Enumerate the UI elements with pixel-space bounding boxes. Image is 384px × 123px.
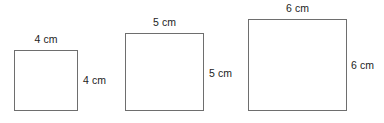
square-4cm-shape xyxy=(14,50,78,111)
square-5cm-top-label: 5 cm xyxy=(125,16,204,28)
square-4cm-side-label: 4 cm xyxy=(83,74,106,86)
square-6cm-shape xyxy=(248,19,347,111)
square-4cm-top-label: 4 cm xyxy=(14,33,78,45)
square-6cm-side-label: 6 cm xyxy=(351,59,374,71)
square-5cm-shape xyxy=(125,33,204,111)
square-6cm-top-label: 6 cm xyxy=(248,2,347,14)
squares-diagram: 4 cm 4 cm 5 cm 5 cm 6 cm 6 cm xyxy=(0,0,384,123)
square-5cm-side-label: 5 cm xyxy=(209,67,232,79)
